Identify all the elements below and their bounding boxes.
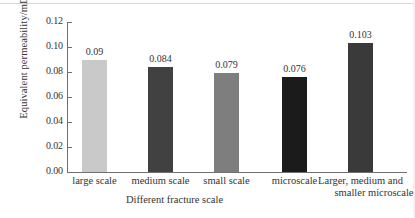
- y-axis-tick: [68, 147, 72, 148]
- bar: [282, 77, 307, 172]
- bar-value-label: 0.09: [70, 46, 119, 57]
- y-axis-tick: [68, 122, 72, 123]
- y-axis-tick-label: 0.08: [30, 65, 63, 76]
- x-axis-category-label-line: medium scale: [131, 175, 189, 186]
- y-axis-tick-label: 0.06: [30, 90, 63, 101]
- x-axis-category-label-line: Larger, medium and: [318, 175, 403, 186]
- bar: [82, 60, 107, 173]
- bar: [214, 73, 239, 172]
- y-axis-tick-label: 0.12: [30, 15, 63, 26]
- y-axis-tick-label: 0.04: [30, 115, 63, 126]
- y-axis-tick: [68, 22, 72, 23]
- x-axis-category-label-line: smaller microscale: [306, 187, 415, 199]
- bar-value-label: 0.103: [336, 29, 385, 40]
- bar: [148, 67, 173, 172]
- y-axis-tick: [68, 172, 72, 173]
- y-axis-tick: [68, 97, 72, 98]
- y-axis-tick-label: 0.10: [30, 40, 63, 51]
- y-axis-tick: [68, 72, 72, 73]
- bar-value-label: 0.076: [270, 63, 319, 74]
- bar-chart-figure: Equivalent permeability/mD 0.000.020.040…: [0, 0, 415, 218]
- bar-value-label: 0.084: [136, 53, 185, 64]
- x-axis-title: Different fracture scale: [67, 194, 282, 205]
- x-axis-line: [67, 172, 407, 173]
- bar-value-label: 0.079: [202, 59, 251, 70]
- x-axis-category-label-line: large scale: [72, 175, 116, 186]
- y-axis-title: Equivalent permeability/mD: [18, 0, 29, 143]
- y-axis-tick-label: 0.02: [30, 140, 63, 151]
- bar: [348, 43, 373, 172]
- scan-artifact-line: [0, 3, 415, 4]
- x-axis-category-label: Larger, medium andsmaller microscale: [306, 175, 415, 199]
- x-axis-category-label-line: small scale: [203, 175, 249, 186]
